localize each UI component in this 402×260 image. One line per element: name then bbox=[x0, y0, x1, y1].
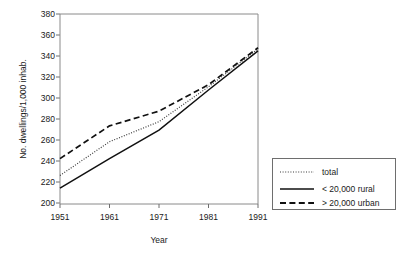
y-tick-label: 380 bbox=[41, 9, 55, 19]
y-axis-tick-labels: 380 360 340 320 300 280 260 240 220 200 bbox=[41, 9, 55, 208]
y-tick-label: 260 bbox=[41, 135, 55, 145]
y-tick-label: 300 bbox=[41, 93, 55, 103]
x-tick-label: 1951 bbox=[51, 212, 70, 222]
x-tick-label: 1971 bbox=[150, 212, 169, 222]
plot-frame bbox=[60, 14, 258, 204]
series-line-rural bbox=[60, 51, 258, 188]
x-tick-label: 1981 bbox=[199, 212, 218, 222]
series-group bbox=[60, 48, 258, 188]
series-line-total bbox=[60, 49, 258, 176]
legend-label-total: total bbox=[322, 167, 338, 177]
x-axis-title: Year bbox=[150, 235, 167, 245]
x-tick-label: 1961 bbox=[100, 212, 119, 222]
y-tick-label: 340 bbox=[41, 51, 55, 61]
y-tick-label: 220 bbox=[41, 177, 55, 187]
legend-label-rural: < 20,000 rural bbox=[322, 184, 375, 194]
y-axis-title: No. dwellings/1,000 inhab. bbox=[18, 59, 28, 159]
y-tick-label: 240 bbox=[41, 156, 55, 166]
legend-label-urban: > 20,000 urban bbox=[322, 198, 380, 208]
y-tick-label: 320 bbox=[41, 72, 55, 82]
y-axis-tick-marks bbox=[56, 14, 60, 203]
legend: total < 20,000 rural > 20,000 urban bbox=[273, 159, 396, 210]
y-tick-label: 200 bbox=[41, 198, 55, 208]
x-axis-tick-labels: 1951 1961 1971 1981 1991 bbox=[51, 212, 268, 222]
chart-container: 380 360 340 320 300 280 260 240 220 200 bbox=[0, 0, 402, 260]
y-tick-label: 280 bbox=[41, 114, 55, 124]
x-axis-tick-marks bbox=[60, 204, 258, 208]
series-line-urban bbox=[60, 48, 258, 159]
line-chart: 380 360 340 320 300 280 260 240 220 200 bbox=[0, 0, 402, 260]
x-tick-label: 1991 bbox=[249, 212, 268, 222]
y-tick-label: 360 bbox=[41, 30, 55, 40]
